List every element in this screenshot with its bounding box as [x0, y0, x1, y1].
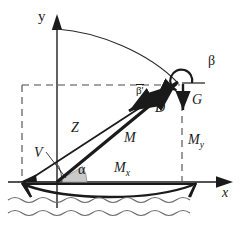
- beta-label: β: [208, 54, 215, 68]
- alpha-label: α: [78, 163, 85, 177]
- z-vector: [20, 83, 178, 182]
- v-leader-line: [46, 152, 66, 178]
- my-subscript: y: [200, 140, 204, 150]
- mx-subscript: x: [126, 168, 130, 178]
- my-base: M: [188, 132, 200, 147]
- boat-hull: [22, 182, 196, 197]
- g-label: G: [192, 93, 202, 107]
- catenary-curve: [57, 29, 178, 83]
- diagram-canvas: [0, 0, 241, 232]
- water-waves: [8, 198, 190, 216]
- wave-line-upper: [8, 198, 190, 203]
- anchor-force-diagram: y x β β' Z M D G V α Mx My: [0, 0, 241, 232]
- y-axis-label: y: [38, 9, 46, 24]
- wave-line-lower: [8, 211, 190, 216]
- beta-prime-label: β': [136, 84, 144, 96]
- mx-label: Mx: [114, 161, 130, 178]
- z-label: Z: [71, 121, 79, 135]
- y-axis-arrowhead: [52, 14, 62, 30]
- m-label: M: [124, 131, 136, 145]
- v-label: V: [34, 146, 43, 160]
- d-label: D: [155, 101, 165, 115]
- x-axis-label: x: [222, 186, 228, 200]
- my-label: My: [188, 133, 204, 150]
- boat-hull-curve: [25, 185, 193, 197]
- mx-base: M: [114, 160, 126, 175]
